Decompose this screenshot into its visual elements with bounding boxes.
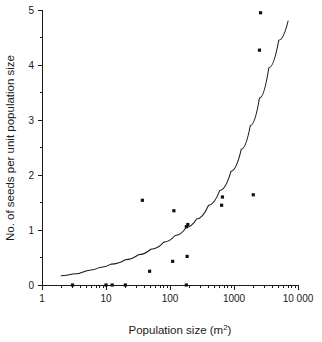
data-point-13: [221, 195, 224, 198]
data-point-4: [185, 283, 188, 286]
chart-figure: 012345 110100100010 000 Population size …: [0, 0, 322, 342]
y-tick-label-2: 2: [28, 170, 34, 181]
data-point-3: [124, 283, 127, 286]
data-point-1: [104, 283, 107, 286]
y-tick-label-1: 1: [28, 225, 34, 236]
data-point-11: [141, 199, 144, 202]
data-point-12: [220, 204, 223, 207]
data-point-9: [186, 223, 189, 226]
x-axis-title-close: ): [228, 324, 232, 336]
y-tick-label-0: 0: [28, 280, 34, 291]
fit-curve: [61, 21, 288, 276]
data-point-2: [111, 283, 114, 286]
data-points: [71, 11, 262, 286]
x-tick-label-10: 10: [100, 293, 112, 304]
data-point-7: [186, 255, 189, 258]
x-axis-title: Population size (m2): [129, 323, 232, 336]
y-tick-label-5: 5: [28, 5, 34, 16]
data-point-0: [71, 283, 74, 286]
x-tick-label-1000: 1000: [223, 293, 246, 304]
x-tick-label-1: 1: [39, 293, 45, 304]
data-point-16: [259, 11, 262, 14]
scatter-plot: 012345 110100100010 000 Population size …: [0, 0, 322, 342]
data-point-6: [171, 260, 174, 263]
data-point-5: [148, 270, 151, 273]
y-tick-label-3: 3: [28, 115, 34, 126]
data-point-14: [252, 193, 255, 196]
data-point-10: [172, 209, 175, 212]
x-tick-label-100: 100: [162, 293, 179, 304]
x-axis-tick-labels: 110100100010 000: [39, 293, 314, 304]
y-tick-label-4: 4: [28, 60, 34, 71]
y-axis-title: No. of seeds per unit population size: [4, 55, 16, 241]
data-point-15: [258, 49, 261, 52]
y-axis-tick-labels: 012345: [28, 5, 34, 291]
x-tick-label-10000: 10 000: [283, 293, 314, 304]
